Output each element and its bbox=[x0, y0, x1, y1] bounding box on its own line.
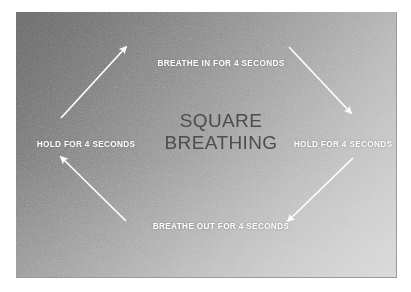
label-hold-left: HOLD FOR 4 SECONDS bbox=[24, 141, 148, 149]
label-breathe-out: BREATHE OUT FOR 4 SECONDS bbox=[128, 223, 314, 231]
diagram-title-line-1: SQUARE bbox=[141, 110, 301, 132]
arrow-bottom-to-left bbox=[61, 157, 126, 221]
square-breathing-diagram: SQUARE BREATHING BREATHE IN FOR 4 SECOND… bbox=[16, 12, 397, 278]
arrow-top-to-bottom-right bbox=[289, 47, 351, 113]
diagram-title: SQUARE BREATHING bbox=[141, 110, 301, 154]
page-root: SQUARE BREATHING BREATHE IN FOR 4 SECOND… bbox=[0, 0, 411, 292]
diagram-title-line-2: BREATHING bbox=[141, 132, 301, 154]
arrow-bottom-right-to-bottom bbox=[288, 158, 353, 221]
label-hold-right: HOLD FOR 4 SECONDS bbox=[278, 141, 397, 149]
arrow-bottom-left-to-top bbox=[61, 47, 126, 118]
label-breathe-in: BREATHE IN FOR 4 SECONDS bbox=[133, 60, 309, 68]
